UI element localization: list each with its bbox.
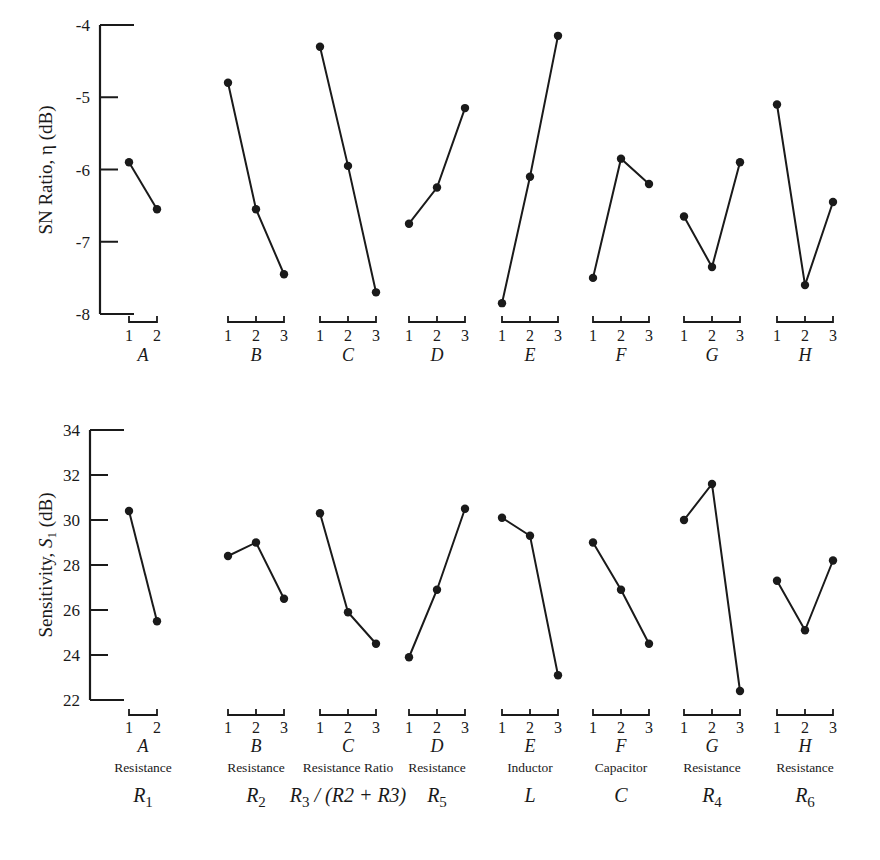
factor-label: F bbox=[615, 345, 628, 365]
factor-group-b: 123B bbox=[224, 79, 288, 365]
level-label: 2 bbox=[252, 719, 260, 736]
level-label: 3 bbox=[554, 719, 562, 736]
factor-symbol: L bbox=[523, 784, 535, 806]
factor-label: G bbox=[706, 736, 719, 756]
y-tick-label: -6 bbox=[76, 161, 90, 180]
factor-label: H bbox=[798, 345, 813, 365]
data-point bbox=[344, 162, 352, 170]
data-point bbox=[589, 538, 597, 546]
y-tick-label: -8 bbox=[76, 305, 90, 324]
factor-group-g: 123GResistanceR4 bbox=[680, 480, 744, 810]
data-point bbox=[316, 42, 324, 50]
factor-group-b: 123BResistanceR2 bbox=[224, 538, 288, 810]
factor-label: E bbox=[524, 345, 536, 365]
factor-symbol: R1 bbox=[132, 784, 153, 810]
sensitivity-chart: Sensitivity, S1 (dB) 3432302826242212ARe… bbox=[35, 421, 837, 810]
data-point bbox=[125, 158, 133, 166]
factor-symbol: R6 bbox=[794, 784, 815, 810]
level-label: 3 bbox=[645, 719, 653, 736]
level-label: 1 bbox=[498, 327, 506, 344]
series-line-e bbox=[502, 36, 558, 303]
factor-group-g: 123G bbox=[680, 158, 744, 365]
level-label: 1 bbox=[316, 719, 324, 736]
series-line-d bbox=[409, 509, 465, 658]
factor-label: D bbox=[430, 345, 444, 365]
data-point bbox=[526, 173, 534, 181]
factor-label: B bbox=[251, 345, 262, 365]
y-tick-label: 22 bbox=[63, 691, 80, 710]
factor-group-c: 123C bbox=[316, 42, 380, 365]
factor-symbol: R5 bbox=[426, 784, 447, 810]
factor-group-a: 12AResistanceR1 bbox=[114, 507, 172, 810]
factor-label: C bbox=[342, 736, 355, 756]
level-label: 2 bbox=[153, 719, 161, 736]
sn-ratio-chart: SN Ratio, η (dB) -4-5-6-7-812A123B123C12… bbox=[35, 16, 837, 365]
data-point bbox=[433, 183, 441, 191]
data-point bbox=[153, 205, 161, 213]
data-point bbox=[252, 205, 260, 213]
factor-group-h: 123HResistanceR6 bbox=[773, 556, 837, 810]
data-point bbox=[708, 480, 716, 488]
series-line-h bbox=[777, 104, 833, 285]
factor-group-e: 123E bbox=[498, 32, 562, 365]
data-point bbox=[829, 198, 837, 206]
level-label: 1 bbox=[680, 719, 688, 736]
data-point bbox=[153, 617, 161, 625]
y-axis-label: SN Ratio, η (dB) bbox=[35, 105, 57, 234]
data-point bbox=[280, 595, 288, 603]
y-tick-label: 24 bbox=[63, 646, 81, 665]
series-line-a bbox=[129, 162, 157, 209]
data-point bbox=[554, 32, 562, 40]
factor-group-f: 123FCapacitorC bbox=[589, 538, 653, 806]
y-tick-label: -5 bbox=[76, 88, 90, 107]
data-point bbox=[554, 671, 562, 679]
factor-description: Resistance bbox=[114, 760, 172, 775]
data-point bbox=[316, 509, 324, 517]
y-tick-label: 28 bbox=[63, 556, 80, 575]
factor-label: A bbox=[137, 736, 150, 756]
data-point bbox=[498, 299, 506, 307]
level-label: 2 bbox=[708, 719, 716, 736]
y-axis-label: Sensitivity, S1 (dB) bbox=[35, 492, 59, 637]
level-label: 2 bbox=[252, 327, 260, 344]
factor-group-e: 123EInductorL bbox=[498, 514, 562, 806]
level-label: 3 bbox=[554, 327, 562, 344]
level-label: 2 bbox=[344, 327, 352, 344]
factor-label: D bbox=[430, 736, 444, 756]
data-point bbox=[461, 505, 469, 513]
y-tick-label: 26 bbox=[63, 601, 80, 620]
factor-description: Resistance Ratio bbox=[303, 760, 394, 775]
factor-label: E bbox=[524, 736, 536, 756]
data-point bbox=[829, 556, 837, 564]
data-point bbox=[680, 212, 688, 220]
level-label: 1 bbox=[224, 719, 232, 736]
factor-label: A bbox=[137, 345, 150, 365]
level-label: 3 bbox=[280, 719, 288, 736]
level-label: 1 bbox=[405, 327, 413, 344]
level-label: 2 bbox=[526, 327, 534, 344]
data-point bbox=[773, 577, 781, 585]
level-label: 1 bbox=[125, 719, 133, 736]
factor-group-d: 123DResistanceR5 bbox=[405, 505, 469, 810]
data-point bbox=[736, 158, 744, 166]
data-point bbox=[125, 507, 133, 515]
data-point bbox=[617, 154, 625, 162]
level-label: 2 bbox=[526, 719, 534, 736]
data-point bbox=[224, 79, 232, 87]
factor-group-a: 12A bbox=[125, 158, 161, 365]
level-label: 1 bbox=[773, 719, 781, 736]
level-label: 1 bbox=[589, 719, 597, 736]
series-line-d bbox=[409, 108, 465, 224]
level-label: 1 bbox=[316, 327, 324, 344]
data-point bbox=[680, 516, 688, 524]
level-label: 3 bbox=[372, 719, 380, 736]
factor-description: Resistance bbox=[408, 760, 466, 775]
data-point bbox=[224, 552, 232, 560]
data-point bbox=[433, 586, 441, 594]
level-label: 1 bbox=[224, 327, 232, 344]
data-point bbox=[344, 608, 352, 616]
level-label: 3 bbox=[461, 719, 469, 736]
level-label: 3 bbox=[829, 719, 837, 736]
data-point bbox=[736, 687, 744, 695]
factor-label: G bbox=[706, 345, 719, 365]
